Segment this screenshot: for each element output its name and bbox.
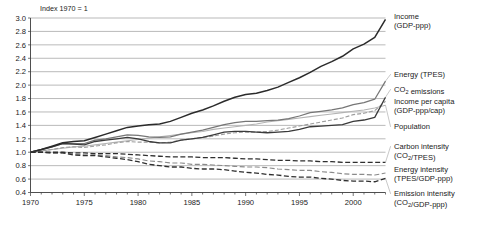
legend-leader-line <box>386 75 392 82</box>
y-tick-label: 0.6 <box>15 175 26 184</box>
legend-leader-lines <box>386 75 392 194</box>
data-series-group <box>31 19 386 181</box>
x-axis-tick-labels: 1970197519801985199019952000 <box>22 198 362 207</box>
y-axis-tick-labels: 0.40.60.81.01.21.41.61.82.02.22.42.62.83… <box>15 14 26 198</box>
legend-leader-line <box>386 90 392 98</box>
x-tick-label: 1990 <box>237 198 254 207</box>
y-tick-label: 1.6 <box>15 108 26 117</box>
x-tick-label: 2000 <box>345 198 362 207</box>
x-axis-tickmarks <box>31 193 386 197</box>
y-tick-label: 1.0 <box>15 148 26 157</box>
legend-group: Income(GDP-ppp)Energy (TPES)CO2 emission… <box>394 12 455 209</box>
series-line <box>31 152 386 182</box>
x-tick-label: 1980 <box>130 198 147 207</box>
series-line <box>31 19 386 152</box>
y-tick-label: 1.2 <box>15 135 26 144</box>
axis-lines <box>31 18 386 193</box>
y-tick-label: 2.0 <box>15 81 26 90</box>
y-tick-label: 3.0 <box>15 14 26 23</box>
legend-leader-line <box>386 105 392 126</box>
y-tick-label: 0.8 <box>15 161 26 170</box>
x-tick-label: 1975 <box>76 198 93 207</box>
legend-leader-line <box>386 178 392 193</box>
legend-entry-0[interactable]: Income(GDP-ppp) <box>394 12 431 30</box>
legend-entry-4[interactable]: Population <box>394 122 430 131</box>
y-tick-label: 2.2 <box>15 67 26 76</box>
y-tick-label: 1.4 <box>15 121 26 130</box>
legend-entry-2[interactable]: CO2 emissions <box>394 85 445 96</box>
x-tick-label: 1985 <box>183 198 200 207</box>
legend-entry-7[interactable]: Emission intensity(CO2/GDP-ppp) <box>394 189 455 209</box>
y-tick-label: 2.6 <box>15 41 26 50</box>
y-tick-label: 1.8 <box>15 94 26 103</box>
legend-entry-6[interactable]: Energy intensity(TPES/GDP-ppp) <box>394 165 453 183</box>
series-line <box>31 152 386 162</box>
legend-entry-3[interactable]: Income per capita(GDP-ppp/cap) <box>394 97 455 115</box>
y-tick-label: 2.8 <box>15 27 26 36</box>
x-tick-label: 1970 <box>22 198 39 207</box>
chart-container: 0.40.60.81.01.21.41.61.82.02.22.42.62.83… <box>0 0 479 227</box>
legend-leader-line <box>386 147 392 163</box>
legend-entry-1[interactable]: Energy (TPES) <box>394 70 446 79</box>
x-tick-label: 1995 <box>291 198 308 207</box>
y-tick-label: 0.4 <box>15 188 26 197</box>
chart-index-title: Index 1970 = 1 <box>40 4 88 13</box>
line-chart: 0.40.60.81.01.21.41.61.82.02.22.42.62.83… <box>0 0 479 227</box>
y-tick-label: 2.4 <box>15 54 26 63</box>
legend-entry-5[interactable]: Carbon intensity(CO2/TPES) <box>394 142 449 162</box>
